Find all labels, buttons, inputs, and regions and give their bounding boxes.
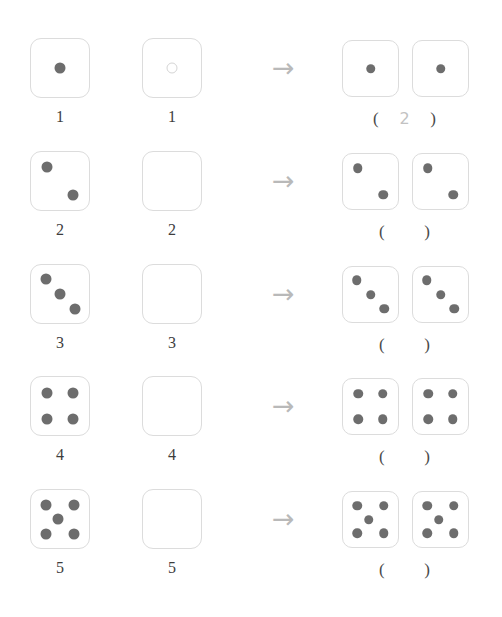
addend-die-left: [30, 264, 90, 324]
arrow-right-icon: →: [272, 167, 295, 194]
die-pip: [448, 414, 458, 424]
result-die-1: [342, 266, 399, 323]
die-pip: [353, 529, 363, 539]
die-pip: [353, 501, 363, 511]
addend-label-right: 3: [142, 334, 202, 352]
result-die-2: [412, 266, 469, 323]
die-pip: [379, 529, 389, 539]
addend-die-right: [142, 376, 202, 436]
die-pip: [67, 414, 78, 425]
arrow-right-icon: →: [272, 280, 295, 307]
paren-close: ): [430, 109, 438, 128]
die-pip: [436, 290, 446, 300]
die-pip: [41, 528, 52, 539]
addend-die-right: [142, 489, 202, 549]
die-pip: [380, 304, 390, 314]
answer-blank[interactable]: ( ): [342, 560, 469, 580]
addend-label-right: 1: [142, 108, 202, 126]
paren-open: (: [373, 109, 381, 128]
result-die-2: [412, 40, 469, 97]
answer-blank[interactable]: ( ): [342, 335, 469, 355]
paren-close: ): [424, 560, 432, 579]
die-pip: [366, 290, 376, 300]
die-pip: [364, 515, 374, 525]
die-pip: [69, 304, 80, 315]
addend-label-left: 4: [30, 446, 90, 464]
addend-label-left: 2: [30, 221, 90, 239]
paren-open: (: [379, 335, 387, 354]
die-pip: [449, 501, 459, 511]
addend-die-left: [30, 376, 90, 436]
die-pip: [424, 389, 434, 399]
die-pip: [53, 514, 64, 525]
die-pip: [55, 63, 66, 74]
die-pip: [353, 164, 363, 174]
die-pip: [68, 528, 79, 539]
addend-die-left: [30, 38, 90, 98]
paren-open: (: [379, 560, 387, 579]
die-pip: [424, 414, 434, 424]
die-pip: [379, 501, 389, 511]
arrow-right-icon: →: [272, 392, 295, 419]
paren-close: ): [424, 222, 432, 241]
exercise-row: 22→( ): [0, 151, 502, 263]
exercise-row: 33→( ): [0, 264, 502, 376]
die-pip: [366, 64, 376, 74]
addend-die-left: [30, 489, 90, 549]
result-die-2: [412, 378, 469, 435]
die-pip: [423, 529, 433, 539]
die-pip: [352, 275, 362, 285]
answer-blank[interactable]: ( ): [342, 447, 469, 467]
paren-open: (: [379, 447, 387, 466]
die-pip: [434, 515, 444, 525]
die-pip: [450, 304, 460, 314]
answer-value[interactable]: 2: [399, 109, 411, 128]
die-pip: [42, 414, 53, 425]
addend-die-right: [142, 264, 202, 324]
addend-die-right: [142, 38, 202, 98]
result-die-1: [342, 153, 399, 210]
arrow-right-icon: →: [272, 54, 295, 81]
addend-label-right: 4: [142, 446, 202, 464]
die-pip: [422, 275, 432, 285]
addend-label-left: 5: [30, 559, 90, 577]
die-pip: [354, 414, 364, 424]
die-pip: [41, 162, 52, 173]
paren-close: ): [424, 335, 432, 354]
page-heading-cropped: [96, 0, 326, 6]
exercise-row: 11→( 2 ): [0, 38, 502, 150]
die-pip: [67, 387, 78, 398]
result-die-1: [342, 378, 399, 435]
die-pip: [448, 190, 458, 200]
die-pip: [68, 499, 79, 510]
die-pip: [378, 414, 388, 424]
die-pip: [423, 164, 433, 174]
die-pip: [41, 499, 52, 510]
result-die-1: [342, 491, 399, 548]
arrow-right-icon: →: [272, 505, 295, 532]
answer-blank[interactable]: ( ): [342, 222, 469, 242]
exercise-row: 55→( ): [0, 489, 502, 601]
addend-label-left: 3: [30, 334, 90, 352]
die-pip: [378, 389, 388, 399]
die-pip: [40, 273, 51, 284]
addend-label-right: 5: [142, 559, 202, 577]
die-pip: [378, 190, 388, 200]
addend-die-left: [30, 151, 90, 211]
die-pip: [42, 387, 53, 398]
addend-die-right: [142, 151, 202, 211]
addend-label-left: 1: [30, 108, 90, 126]
die-pip: [436, 64, 446, 74]
die-pip: [55, 289, 66, 300]
paren-open: (: [379, 222, 387, 241]
result-die-2: [412, 491, 469, 548]
die-pip: [167, 63, 178, 74]
die-pip: [354, 389, 364, 399]
answer-blank[interactable]: ( 2 ): [342, 109, 469, 129]
die-pip: [448, 389, 458, 399]
die-pip: [423, 501, 433, 511]
result-die-2: [412, 153, 469, 210]
paren-close: ): [424, 447, 432, 466]
die-pip: [449, 529, 459, 539]
worksheet-page: 11→( 2 )22→( )33→( )44→( )55→( ): [0, 0, 502, 617]
